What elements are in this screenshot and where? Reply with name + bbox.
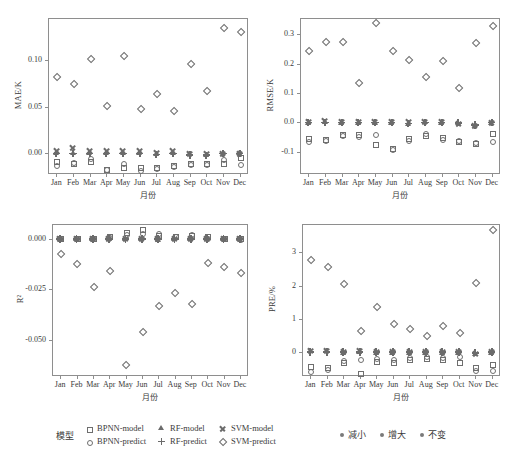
x-tick-mark — [492, 376, 493, 379]
trend-legend-item-减小[interactable]: 减小 — [340, 428, 366, 441]
figure-legend: 模型 BPNN-modelRF-modelSVM-modelBPNN-predi… — [0, 420, 520, 464]
legend-marker — [217, 423, 228, 434]
trend-legend-label: 不变 — [428, 428, 446, 441]
y-tick-label: 3 — [278, 247, 296, 256]
legend-item-label: BPNN-predict — [97, 436, 146, 447]
x-tick-label-dec: Dec — [481, 380, 503, 389]
legend-item-label: RF-model — [170, 423, 204, 434]
model-legend-items: BPNN-modelRF-modelSVM-modelBPNN-predictR… — [83, 422, 276, 448]
x-tick-mark — [475, 376, 476, 379]
trend-legend-label: 减小 — [348, 428, 366, 441]
subplot-pre: PRE/%0123JanFebMarAprMayJunJulAugSepOctN… — [0, 0, 520, 464]
figure-root: MAE/K0.000.050.10JanFebMarAprMayJunJulAu… — [0, 0, 520, 464]
x-tick-mark — [343, 376, 344, 379]
legend-item-label: RF-predict — [170, 436, 207, 447]
x-tick-mark — [310, 376, 311, 379]
legend-dot-icon — [420, 433, 424, 437]
legend-marker — [83, 436, 94, 447]
legend-dot-icon — [340, 433, 344, 437]
y-tick-label: 2 — [278, 281, 296, 290]
legend-item-label: BPNN-model — [97, 423, 144, 434]
legend-item-bpnn-predict[interactable]: BPNN-predict — [83, 435, 146, 448]
y-axis-label-pre: PRE/% — [267, 277, 277, 321]
legend-dot-icon — [380, 433, 384, 437]
y-tick-mark — [299, 286, 302, 287]
legend-item-rf-predict[interactable]: RF-predict — [156, 435, 207, 448]
y-tick-mark — [299, 252, 302, 253]
x-tick-mark — [393, 376, 394, 379]
legend-item-svm-model[interactable]: SVM-model — [217, 422, 276, 435]
x-tick-mark — [459, 376, 460, 379]
legend-item-bpnn-model[interactable]: BPNN-model — [83, 422, 146, 435]
trend-legend-label: 增大 — [388, 428, 406, 441]
model-legend-title: 模型 — [56, 429, 74, 442]
model-legend: 模型 BPNN-modelRF-modelSVM-modelBPNN-predi… — [56, 422, 276, 448]
legend-marker — [217, 436, 228, 447]
legend-marker — [156, 436, 167, 447]
x-tick-mark — [376, 376, 377, 379]
legend-marker — [83, 423, 94, 434]
trend-legend-item-增大[interactable]: 增大 — [380, 428, 406, 441]
x-tick-mark — [426, 376, 427, 379]
x-tick-mark — [360, 376, 361, 379]
trend-legend: 减小增大不变 — [340, 428, 446, 441]
legend-item-label: SVM-predict — [231, 436, 276, 447]
x-tick-mark — [442, 376, 443, 379]
legend-item-svm-predict[interactable]: SVM-predict — [217, 435, 276, 448]
legend-marker — [156, 423, 167, 434]
x-tick-mark — [327, 376, 328, 379]
legend-item-label: SVM-model — [231, 423, 274, 434]
y-tick-label: 0 — [278, 347, 296, 356]
trend-legend-item-不变[interactable]: 不变 — [420, 428, 446, 441]
legend-item-rf-model[interactable]: RF-model — [156, 422, 207, 435]
x-axis-label-pre: 月份 — [381, 391, 421, 402]
plot-frame-pre — [302, 224, 500, 376]
y-tick-label: 1 — [278, 314, 296, 323]
y-tick-mark — [299, 319, 302, 320]
y-tick-mark — [299, 352, 302, 353]
x-tick-mark — [409, 376, 410, 379]
